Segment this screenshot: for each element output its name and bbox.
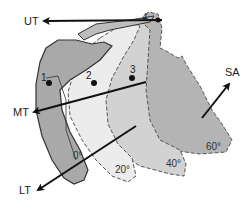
point-3-marker bbox=[129, 75, 135, 81]
ut-label: UT bbox=[24, 15, 39, 27]
point-4-label: 4 bbox=[142, 12, 148, 23]
point-2-label: 2 bbox=[86, 70, 92, 81]
point-2-marker bbox=[91, 80, 97, 86]
point-1-label: 1 bbox=[41, 72, 47, 83]
point-3-label: 3 bbox=[130, 64, 136, 75]
angle-60-label: 60° bbox=[206, 141, 221, 152]
angle-40-label: 40° bbox=[166, 158, 181, 169]
angle-20-label: 20° bbox=[115, 164, 130, 175]
mt-label: MT bbox=[13, 106, 29, 118]
point-4-marker bbox=[156, 18, 161, 23]
lt-label: LT bbox=[19, 184, 31, 196]
sa-label: SA bbox=[225, 66, 240, 78]
scapula-rotation-diagram: 1 2 3 4 UT MT LT SA 0° 20° 40° 60° bbox=[0, 0, 250, 204]
angle-0-label: 0° bbox=[73, 150, 83, 161]
point-1-marker bbox=[46, 80, 52, 86]
